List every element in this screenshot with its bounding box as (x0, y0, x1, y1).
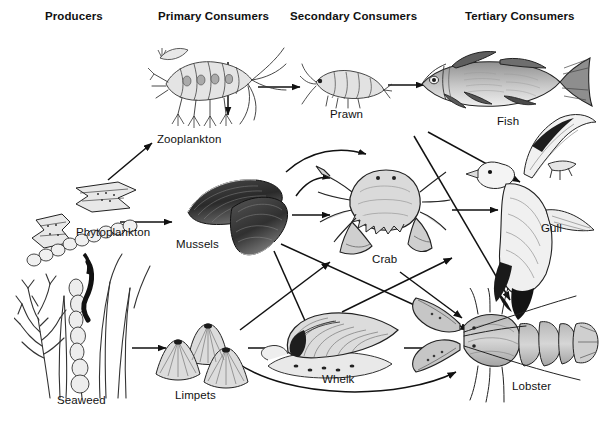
label-zooplankton: Zooplankton (157, 133, 221, 145)
crab-illustration (306, 152, 452, 264)
label-phytoplankton: Phytoplankton (76, 226, 150, 238)
organism-lobster (408, 288, 600, 408)
organism-crab (306, 152, 452, 268)
label-fish: Fish (497, 115, 519, 127)
label-gull: Gull (541, 222, 562, 234)
label-crab: Crab (372, 253, 397, 265)
seaweed-illustration (14, 248, 154, 400)
organism-seaweed (14, 248, 154, 404)
food-web-diagram: Producers Primary Consumers Secondary Co… (0, 0, 601, 433)
prawn-illustration (300, 60, 392, 112)
limpets-illustration (148, 316, 258, 392)
fish-illustration (408, 46, 596, 122)
label-mussels: Mussels (176, 238, 219, 250)
label-lobster: Lobster (512, 380, 551, 392)
organism-mussels (178, 166, 298, 266)
lobster-illustration (408, 288, 600, 404)
organism-zooplankton (148, 28, 288, 137)
column-header-secondary-consumers: Secondary Consumers (290, 10, 417, 22)
organism-limpets (148, 316, 258, 396)
column-header-tertiary-consumers: Tertiary Consumers (465, 10, 575, 22)
column-header-primary-consumers: Primary Consumers (158, 10, 269, 22)
label-seaweed: Seaweed (57, 394, 106, 406)
column-header-producers: Producers (45, 10, 103, 22)
label-whelk: Whelk (322, 373, 354, 385)
label-prawn: Prawn (330, 108, 363, 120)
zooplankton-illustration (148, 28, 288, 133)
label-limpets: Limpets (175, 389, 216, 401)
